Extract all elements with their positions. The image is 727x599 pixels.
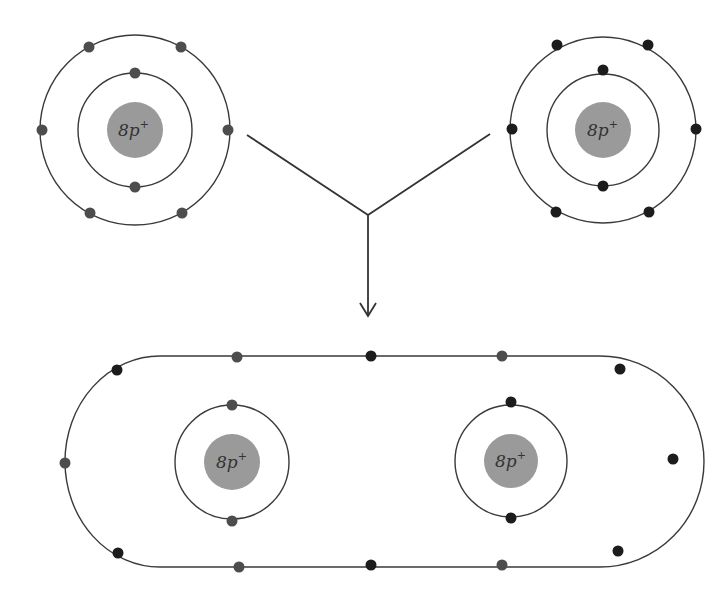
- right-branch-line: [368, 134, 490, 215]
- electron: [506, 397, 517, 408]
- right-oxygen-atom: 8p+: [507, 37, 702, 223]
- electron: [497, 351, 508, 362]
- reaction-arrow: [247, 134, 490, 316]
- electron: [227, 400, 238, 411]
- electron: [112, 365, 123, 376]
- electron: [223, 125, 234, 136]
- electron: [84, 42, 95, 53]
- electron: [507, 124, 518, 135]
- electron: [644, 207, 655, 218]
- electron: [177, 208, 188, 219]
- electron: [552, 40, 563, 51]
- left-branch-line: [247, 135, 368, 215]
- electron: [506, 513, 517, 524]
- electron: [551, 207, 562, 218]
- electron: [176, 42, 187, 53]
- electron: [497, 560, 508, 571]
- electron: [598, 65, 609, 76]
- electron: [366, 560, 377, 571]
- electron: [668, 454, 679, 465]
- electron: [37, 125, 48, 136]
- electron: [227, 516, 238, 527]
- oxygen-molecule: 8p+ 8p+: [60, 351, 705, 573]
- electron: [232, 352, 243, 363]
- electron: [130, 182, 141, 193]
- electron: [85, 208, 96, 219]
- shared-outer-orbit: [65, 356, 704, 567]
- oxygen-bonding-diagram: 8p+ 8p+: [0, 0, 727, 599]
- electron: [615, 364, 626, 375]
- electron: [113, 548, 124, 559]
- electron: [60, 458, 71, 469]
- electron: [598, 181, 609, 192]
- electron: [234, 562, 245, 573]
- electron: [691, 124, 702, 135]
- electron: [366, 351, 377, 362]
- electron: [130, 68, 141, 79]
- left-oxygen-atom: 8p+: [37, 35, 234, 225]
- electron: [613, 546, 624, 557]
- electron: [643, 40, 654, 51]
